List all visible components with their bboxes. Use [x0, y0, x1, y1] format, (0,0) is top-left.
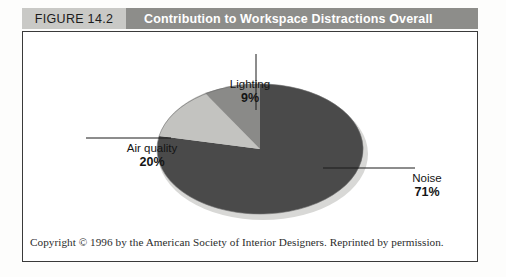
pie-label-noise-value: 71%: [401, 185, 453, 199]
pie-label-air-quality-value: 20%: [111, 155, 193, 169]
pie-label-lighting-name: Lighting: [215, 78, 285, 91]
pie-label-air-quality-name: Air quality: [111, 142, 193, 155]
figure-header-bar: FIGURE 14.2 Contribution to Workspace Di…: [22, 8, 478, 29]
pie-label-noise-name: Noise: [401, 172, 453, 185]
pie-label-lighting: Lighting 9%: [215, 78, 285, 105]
figure-number-label: FIGURE 14.2: [22, 8, 126, 29]
pie-label-air-quality: Air quality 20%: [111, 142, 193, 169]
pie-label-noise: Noise 71%: [401, 172, 453, 199]
figure-container: FIGURE 14.2 Contribution to Workspace Di…: [0, 0, 506, 277]
figure-title: Contribution to Workspace Distractions O…: [126, 8, 478, 29]
pie-label-lighting-value: 9%: [215, 91, 285, 105]
copyright-notice: Copyright © 1996 by the American Society…: [30, 236, 444, 248]
pie-chart-svg: [23, 32, 479, 263]
pie-chart: Lighting 9% Air quality 20% Noise 71%: [23, 32, 479, 263]
figure-frame: Lighting 9% Air quality 20% Noise 71%: [22, 31, 478, 262]
